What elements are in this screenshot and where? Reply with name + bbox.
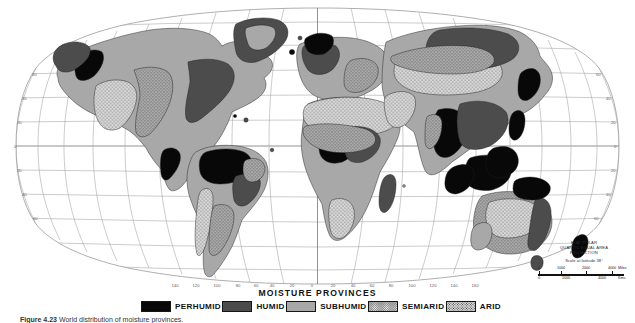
scale-miles-unit: Miles [618, 266, 627, 270]
subhumid-swatch [286, 301, 316, 312]
lat-label-right-40s: 40 [606, 192, 611, 197]
figure-moisture-provinces: 60 40 20 0 20 40 60 60 40 20 0 20 40 60 … [0, 0, 635, 323]
scale-kms-1000: 1000 [562, 276, 570, 280]
lat-label-left-60s: 60 [33, 216, 38, 221]
legend-item-arid[interactable]: ARID [446, 301, 501, 312]
legend-item-humid[interactable]: HUMID [222, 301, 284, 312]
legend: PERHUMID HUMID SUBHUMID SEMIARID ARID [141, 299, 501, 313]
scale-bar: 0 1000 2000 4000 Miles 0 1000 4000 Kms. [536, 266, 632, 282]
figure-caption-text: World distribution of moisture provinces… [59, 316, 183, 323]
semiarid-swatch [368, 301, 398, 312]
legend-title: MOISTURE PROVINCES [0, 288, 635, 298]
arid-swatch [446, 301, 476, 312]
lat-label-right-20: 20 [611, 120, 616, 125]
legend-item-perhumid[interactable]: PERHUMID [141, 301, 221, 312]
legend-label-semiarid: SEMIARID [402, 302, 444, 311]
lat-label-right-40: 40 [606, 96, 611, 101]
perhumid-swatch [141, 301, 171, 312]
scale-kms-0: 0 [538, 276, 540, 280]
legend-label-arid: ARID [480, 302, 501, 311]
legend-label-perhumid: PERHUMID [175, 302, 221, 311]
legend-item-subhumid[interactable]: SUBHUMID [286, 301, 366, 312]
figure-caption: Figure 4.23 World distribution of moistu… [20, 316, 183, 323]
scale-miles-2000: 2000 [582, 266, 590, 270]
lat-label-right-60: 60 [596, 72, 601, 77]
lat-label-left-40s: 40 [22, 192, 27, 197]
scale-miles-1000: 1000 [557, 266, 565, 270]
projection-note: FLAT POLAR QUARTIC EQUAL AREA PROJECTION… [534, 241, 634, 282]
scale-miles-4000: 4000 [608, 266, 616, 270]
lat-label-left-40: 40 [22, 96, 27, 101]
scale-caption: Scale at latitude 38° [534, 259, 634, 264]
lat-label-right-20s: 20 [611, 168, 616, 173]
projection-line-3: PROJECTION [534, 251, 634, 256]
legend-label-humid: HUMID [256, 302, 284, 311]
land-new-guinea [513, 177, 550, 200]
scale-kms-4000: 4000 [598, 276, 606, 280]
lat-label-left-20: 20 [17, 120, 22, 125]
lat-label-right-60s: 60 [594, 216, 599, 221]
legend-item-semiarid[interactable]: SEMIARID [368, 301, 444, 312]
lat-label-left-60: 60 [32, 72, 37, 77]
lat-label-left-20s: 20 [17, 168, 22, 173]
figure-caption-label: Figure 4.23 [20, 316, 57, 323]
scale-kms-unit: Kms. [618, 276, 626, 280]
scale-miles-0: 0 [538, 266, 540, 270]
humid-swatch [222, 301, 252, 312]
legend-label-subhumid: SUBHUMID [320, 302, 366, 311]
